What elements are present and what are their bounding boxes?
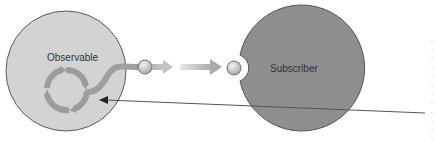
flow-arrow-2 (180, 59, 222, 75)
observable-label: Observable (47, 52, 99, 63)
flow-arrow-1 (152, 60, 173, 74)
emitted-value-ball (138, 60, 152, 74)
subscriber-node: Subscriber (240, 5, 365, 131)
observable-subscriber-diagram: Observable Subscriber (0, 0, 436, 142)
received-value-ball (227, 61, 241, 75)
subscriber-label: Subscriber (270, 63, 318, 74)
